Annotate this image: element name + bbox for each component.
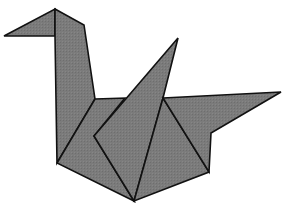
- beak-panel: [4, 9, 55, 36]
- crane-body: [4, 9, 281, 201]
- origami-figure-canvas: [0, 0, 296, 216]
- origami-crane-illustration: [0, 0, 296, 216]
